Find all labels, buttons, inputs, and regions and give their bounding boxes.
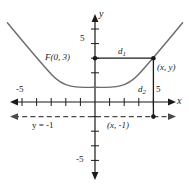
y-axis-bottom-arrowhead	[92, 172, 99, 180]
y-tick-label-neg5: -5	[76, 155, 84, 164]
y-tick-label-pos5: 5	[80, 34, 85, 43]
x-axis-label: x	[177, 96, 181, 106]
directrix-right-arrowhead	[168, 113, 176, 120]
y-axis	[91, 14, 99, 180]
directrix-foot-marker	[151, 114, 156, 119]
x-tick-label-pos5: 5	[156, 85, 161, 94]
y-axis-label: y	[99, 9, 103, 19]
parabola-point-label: (x, y)	[157, 63, 175, 72]
x-tick-label-neg5: -5	[16, 85, 24, 94]
directrix-foot-label: (x, -1)	[107, 121, 129, 130]
directrix-equation-text: y = -1	[32, 120, 54, 130]
distance-d2-label: d2	[138, 85, 146, 96]
x-axis-left-arrowhead	[10, 99, 18, 106]
distance-d1-label: d1	[118, 47, 126, 58]
focus-point-marker	[93, 56, 98, 61]
focus-label: F(0, 3)	[45, 53, 70, 62]
y-axis-top-arrowhead	[92, 14, 99, 22]
x-axis	[10, 98, 176, 106]
parabola-point-marker	[151, 56, 156, 61]
parabola-figure: x y -5 5 5 -5 F(0, 3) (x, y) (x, -1) y =…	[0, 0, 189, 187]
distance-d2-subscript: 2	[143, 88, 147, 96]
distance-d1-subscript: 1	[123, 50, 127, 58]
x-axis-right-arrowhead	[168, 99, 176, 106]
directrix-equation-label: y = -1	[32, 121, 54, 130]
directrix-left-arrowhead	[10, 113, 18, 120]
